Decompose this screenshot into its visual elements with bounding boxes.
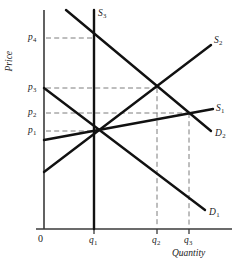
- curve-label-d1: D1: [209, 208, 219, 218]
- y-axis-title: Price: [5, 51, 15, 72]
- origin-label: 0: [38, 234, 43, 244]
- tick-label-p2: p2: [28, 108, 36, 118]
- x-axis-title: Quantity: [172, 249, 205, 259]
- curve-label-d2: D2: [215, 129, 225, 139]
- plot-area: [0, 0, 243, 270]
- tick-label-p4: p4: [28, 33, 36, 43]
- curve-label-s2: S2: [214, 36, 222, 46]
- curve-label-s1: S1: [216, 104, 224, 114]
- tick-label-q2: q2: [152, 236, 160, 246]
- supply-demand-figure: Price Quantity 0 p4 p3 p2 p1 q1 q2 q3 S3…: [0, 0, 243, 270]
- tick-label-q3: q3: [184, 236, 192, 246]
- curve-label-s3: S3: [98, 9, 106, 19]
- tick-label-q1: q1: [89, 236, 97, 246]
- curve-s1: [44, 109, 213, 140]
- tick-label-p3: p3: [28, 83, 36, 93]
- tick-label-p1: p1: [28, 126, 36, 136]
- curve-s2: [44, 45, 211, 172]
